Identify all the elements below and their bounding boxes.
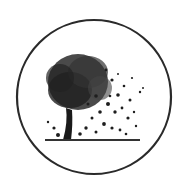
tree-emblem-icon [0,0,187,188]
tree-icon [45,54,144,141]
logo [0,0,187,188]
